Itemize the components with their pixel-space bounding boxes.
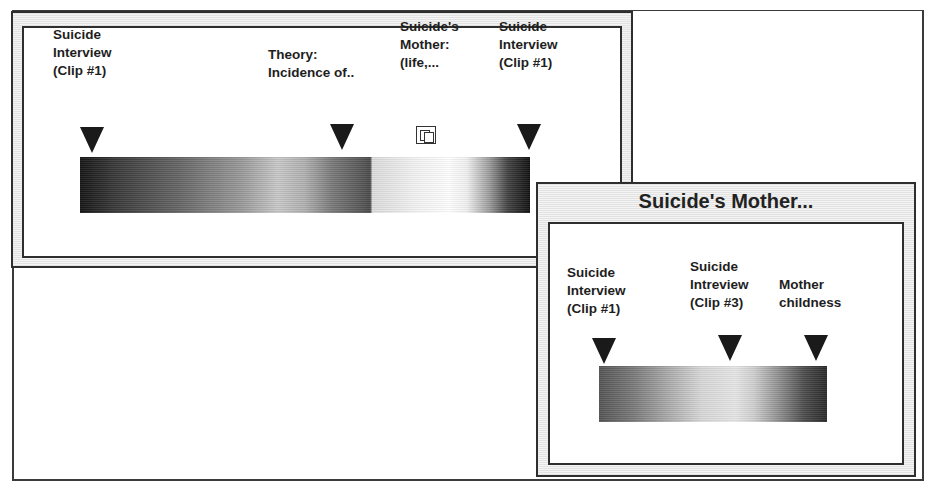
- popup-window-suicides-mother: Suicide's Mother...: [536, 182, 916, 477]
- marker-label-2: Theory: Incidence of..: [268, 46, 354, 82]
- marker-triangle-icon[interactable]: [517, 124, 541, 150]
- marker-label-3: Suicide's Mother: (life,...: [400, 18, 459, 72]
- marker-triangle-icon[interactable]: [330, 124, 354, 150]
- popup-title: Suicide's Mother...: [538, 190, 914, 220]
- timeline-gradient-bar[interactable]: [80, 157, 530, 213]
- popup-marker-label-3: Mother childness: [779, 276, 841, 312]
- marker-label-1: Suicide Interview (Clip #1): [53, 26, 112, 80]
- marker-triangle-icon[interactable]: [80, 127, 104, 153]
- marker-triangle-icon[interactable]: [592, 338, 616, 364]
- stacked-windows-icon[interactable]: [416, 126, 436, 144]
- marker-triangle-icon[interactable]: [718, 335, 742, 361]
- marker-label-4: Suicide Interview (Clip #1): [499, 18, 558, 72]
- popup-marker-label-1: Suicide Interview (Clip #1): [567, 264, 626, 318]
- popup-marker-label-2: Suicide Intreview (Clip #3): [690, 258, 749, 312]
- marker-triangle-icon[interactable]: [804, 335, 828, 361]
- popup-gradient-bar[interactable]: [599, 366, 827, 422]
